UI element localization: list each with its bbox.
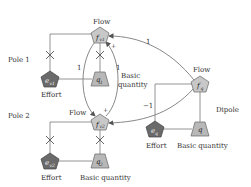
dipole-connections (155, 84, 200, 129)
basic-quantity-1-line2: quantity (118, 81, 148, 89)
node-q2-sub: 2 (99, 162, 103, 167)
node-f-q[interactable]: f q (191, 76, 209, 92)
node-e-v1[interactable]: e v1 (41, 71, 59, 87)
effort-q-label: Effort (146, 142, 167, 150)
node-e-v1-sub: v1 (50, 81, 55, 86)
node-q1-sub: 1 (100, 80, 103, 85)
flow-v1-label: Flow (93, 18, 110, 26)
node-e-v2-sub: v2 (50, 163, 56, 168)
effort-v1-label: Effort (41, 91, 62, 99)
node-q1[interactable]: q 1 (91, 72, 109, 86)
node-q[interactable]: q (191, 122, 209, 136)
node-f-v2[interactable]: f v2 (91, 114, 109, 130)
node-f-v1[interactable]: f v1 (91, 27, 109, 43)
flow-v2-label: Flow (69, 109, 86, 117)
plus-top: + (111, 42, 116, 49)
plus-bottom: + (103, 106, 108, 113)
loop-right-curve (106, 42, 118, 116)
coef-left: 1 (77, 64, 81, 72)
coef-bottom: −1 (143, 102, 153, 110)
node-q-main: q (198, 126, 203, 134)
basic-quantity-q-label: Basic quantity (177, 142, 228, 150)
effort-v2-label: Effort (41, 174, 62, 182)
dipole-label: Dipole (216, 106, 239, 114)
flow-q-label: Flow (193, 66, 210, 74)
coef-right: 1 (116, 64, 120, 72)
node-q2[interactable]: q 2 (91, 154, 109, 168)
diagram-canvas: f v1 e v1 q 1 f v2 e v2 q 2 f q e q q (0, 0, 251, 187)
basic-quantity-1-line1: Basic (121, 72, 140, 80)
pole2-label: Pole 2 (8, 112, 30, 120)
node-e-q-sub: q (155, 131, 158, 136)
node-e-q[interactable]: e q (146, 121, 164, 137)
coef-top: 1 (146, 38, 150, 46)
node-e-v2[interactable]: e v2 (41, 153, 59, 169)
pole2-connections (50, 122, 100, 161)
node-f-q-sub: q (201, 86, 204, 91)
node-f-v2-sub: v2 (100, 124, 106, 129)
pole1-label: Pole 1 (8, 56, 30, 64)
node-f-v1-sub: v1 (100, 37, 105, 42)
pole1-connections (50, 34, 100, 79)
basic-quantity-2-label: Basic quantity (80, 174, 131, 182)
